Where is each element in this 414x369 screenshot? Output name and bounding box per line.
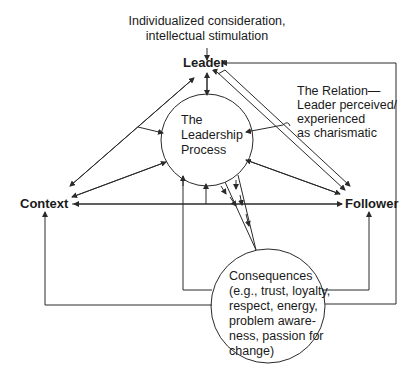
relation-line2: Leader perceived/ <box>297 98 397 112</box>
relation-line1: The Relation— <box>297 84 397 98</box>
consequences-line2: (e.g., trust, loyalty, <box>229 284 330 299</box>
relation-label: The Relation— Leader perceived/ experien… <box>297 84 397 140</box>
top-note-line1: Individualized consideration, <box>117 14 297 29</box>
consequences-line3: respect, energy, <box>229 299 330 314</box>
leader-node: Leader <box>183 55 226 70</box>
consequences-line4: problem aware- <box>229 314 330 329</box>
consequences-label: Consequences (e.g., trust, loyalty, resp… <box>229 269 330 359</box>
consequences-line5: ness, passion for <box>229 329 330 344</box>
top-note: Individualized consideration, intellectu… <box>117 14 297 44</box>
top-note-line2: intellectual stimulation <box>117 29 297 44</box>
process-line1: The <box>181 113 243 128</box>
process-line2: Leadership <box>181 128 243 143</box>
process-line3: Process <box>181 143 243 158</box>
relation-line3: experienced <box>297 112 397 126</box>
consequences-line6: change) <box>229 344 330 359</box>
leadership-process-label: The Leadership Process <box>181 113 243 158</box>
follower-node: Follower <box>345 196 398 211</box>
relation-line4: as charismatic <box>297 126 397 140</box>
context-node: Context <box>20 196 68 211</box>
consequences-line1: Consequences <box>229 269 330 284</box>
